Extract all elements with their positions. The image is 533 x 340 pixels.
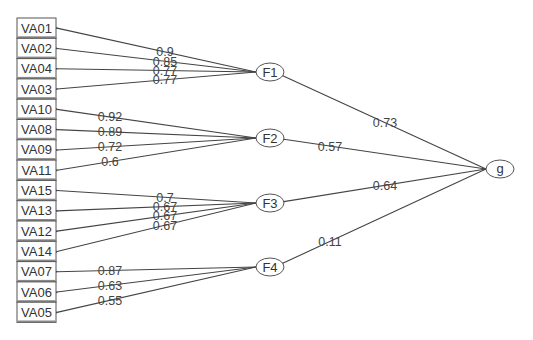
- indicator-label: VA02: [21, 41, 52, 56]
- g-loading-value: 0.57: [318, 140, 342, 154]
- latent-nodes: F1F2F3F4g: [256, 63, 514, 276]
- g-loading-value: 0.73: [373, 116, 397, 130]
- box-separator: [18, 321, 56, 323]
- indicator-label: VA06: [21, 285, 52, 300]
- indicator-label: VA08: [21, 122, 52, 137]
- indicator-label: VA14: [21, 244, 52, 259]
- loading-edge: [57, 267, 256, 312]
- factor-label: F4: [262, 260, 277, 275]
- indicator-label: VA10: [21, 102, 52, 117]
- indicator-label: VA04: [21, 61, 52, 76]
- loading-edge: [57, 138, 256, 170]
- loading-value: 0.92: [98, 110, 122, 124]
- indicator-label: VA03: [21, 82, 52, 97]
- loading-value: 0.72: [98, 140, 122, 154]
- indicator-label: VA07: [21, 264, 52, 279]
- indicator-label: VA05: [21, 305, 52, 320]
- indicator-label: VA09: [21, 142, 52, 157]
- loading-value: 0.87: [98, 264, 122, 278]
- loading-value: 0.55: [98, 294, 122, 308]
- factor-diagram: VA01VA02VA04VA03VA10VA08VA09VA11VA15VA13…: [0, 0, 533, 340]
- loading-value: 0.89: [98, 125, 122, 139]
- factor-label: F3: [262, 196, 277, 211]
- loading-value: 0.63: [98, 279, 122, 293]
- indicator-label: VA11: [22, 163, 52, 178]
- indicator-label: VA01: [21, 21, 52, 36]
- factor-label: F2: [262, 131, 277, 146]
- factor-label: F1: [262, 65, 277, 80]
- g-loading-value: 0.11: [318, 235, 341, 249]
- general-factor-label: g: [496, 161, 503, 176]
- g-loading-edge: [284, 139, 486, 169]
- indicator-label: VA12: [21, 224, 52, 239]
- indicator-label: VA13: [21, 203, 52, 218]
- loading-edge: [57, 138, 256, 150]
- loading-value: 0.77: [153, 73, 177, 87]
- indicator-label: VA15: [21, 183, 52, 198]
- loading-value: 0.67: [153, 219, 177, 233]
- g-loading-value: 0.64: [373, 179, 397, 193]
- loading-value: 0.6: [101, 155, 118, 169]
- indicator-boxes: VA01VA02VA04VA03VA10VA08VA09VA11VA15VA13…: [17, 18, 56, 323]
